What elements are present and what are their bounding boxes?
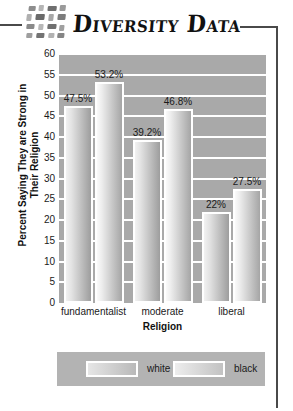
bar-liberal-white [202,212,231,303]
y-tick-label: 35 [25,153,55,163]
legend-swatch-white [86,361,138,377]
bar-moderate-black [164,109,193,303]
bar-liberal-black [233,189,262,303]
y-tick-label: 20 [25,215,55,225]
mosaic-tiles-icon [23,4,71,40]
legend-swatch-black [173,361,225,377]
y-tick-label: 50 [25,91,55,101]
x-tick-label-fundamentalist: fundamentalist [59,306,128,317]
y-tick-label: 5 [25,277,55,287]
bar-fundamentalist-black [95,82,124,303]
x-tick-label-moderate: moderate [128,306,197,317]
legend-label-white: white [147,363,170,374]
bar-value-label: 46.8% [155,96,202,107]
y-tick-label: 10 [25,257,55,267]
y-tick-label: 30 [25,174,55,184]
y-tick-label: 25 [25,194,55,204]
x-axis-label: Religion [59,321,266,332]
y-tick-label: 15 [25,236,55,246]
chart-legend: whiteblack [57,352,265,386]
header-rule-right [240,26,278,28]
y-tick-label: 55 [25,70,55,80]
header-rule-left [0,24,22,26]
y-tick-label: 40 [25,132,55,142]
y-tick-label: 0 [25,298,55,308]
bar-value-label: 53.2% [86,69,133,80]
bar-fundamentalist-white [64,106,93,303]
gridline [59,53,266,55]
y-axis-ticks: 051015202530354045505560 [22,48,55,309]
page-title: Diversity Data [71,5,234,44]
page-header: Diversity Data [0,0,293,48]
legend-label-black: black [234,363,257,374]
plot-area: 47.5%53.2%39.2%46.8%22%27.5% [59,54,266,303]
bar-chart: Percent Saying They are Strong in Their … [0,48,293,343]
bar-value-label: 27.5% [224,176,271,187]
x-tick-label-liberal: liberal [197,306,266,317]
y-tick-label: 45 [25,111,55,121]
y-tick-label: 60 [25,49,55,59]
bar-moderate-white [133,140,162,303]
